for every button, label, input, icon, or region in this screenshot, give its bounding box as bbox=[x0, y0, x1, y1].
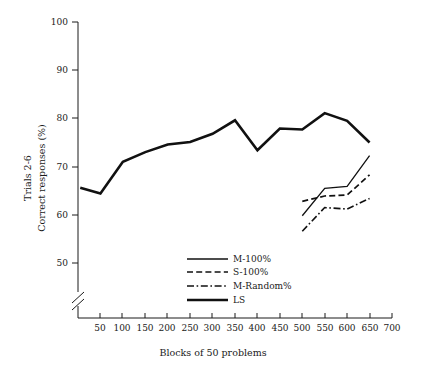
y-tick-label-50: 50 bbox=[57, 258, 69, 268]
x-tick-label-200: 200 bbox=[158, 323, 175, 333]
legend-label-m-random: M-Random% bbox=[233, 281, 292, 291]
x-tick-label-400: 400 bbox=[248, 323, 265, 333]
chart-legend: M-100% S-100% M-Random% LS bbox=[187, 254, 292, 305]
x-tick-label-250: 250 bbox=[181, 323, 198, 333]
series-line-m-100 bbox=[302, 156, 369, 216]
y-axis-title-line2: Correct responses (%) bbox=[36, 124, 47, 232]
plot-area bbox=[80, 113, 369, 231]
y-tick-label-60: 60 bbox=[57, 210, 69, 220]
x-axis-title: Blocks of 50 problems bbox=[159, 347, 266, 358]
x-tick-label-350: 350 bbox=[226, 323, 243, 333]
legend-item-m-100[interactable]: M-100% bbox=[187, 254, 271, 264]
x-tick-label-300: 300 bbox=[203, 323, 220, 333]
y-tick-label-100: 100 bbox=[51, 17, 68, 27]
x-tick-label-50: 50 bbox=[94, 323, 106, 333]
legend-label-s-100: S-100% bbox=[233, 267, 269, 277]
y-tick-label-90: 90 bbox=[57, 65, 69, 75]
y-axis-title: Trials 2-6 Correct responses (%) bbox=[22, 124, 47, 232]
legend-item-m-random[interactable]: M-Random% bbox=[187, 281, 292, 291]
legend-label-m-100: M-100% bbox=[233, 254, 271, 264]
legend-label-ls: LS bbox=[233, 295, 245, 305]
x-tick-label-650: 650 bbox=[361, 323, 378, 333]
series-line-s-100 bbox=[302, 175, 369, 202]
series-line-ls bbox=[80, 113, 369, 193]
chart-svg: 100 90 80 70 60 50 Trials 2-6 Correct re… bbox=[0, 0, 425, 372]
x-tick-label-600: 600 bbox=[338, 323, 355, 333]
x-tick-label-150: 150 bbox=[136, 323, 153, 333]
x-tick-label-450: 450 bbox=[271, 323, 288, 333]
y-axis-title-line1: Trials 2-6 bbox=[22, 155, 33, 201]
x-tick-label-500: 500 bbox=[293, 323, 310, 333]
x-axis: 50 100 150 200 250 300 350 400 450 500 5… bbox=[78, 313, 401, 333]
y-axis: 100 90 80 70 60 50 bbox=[51, 17, 84, 318]
legend-item-ls[interactable]: LS bbox=[187, 295, 245, 305]
y-tick-label-70: 70 bbox=[57, 162, 69, 172]
legend-item-s-100[interactable]: S-100% bbox=[187, 267, 269, 277]
x-tick-label-700: 700 bbox=[383, 323, 400, 333]
x-tick-label-100: 100 bbox=[113, 323, 130, 333]
chart-figure: 100 90 80 70 60 50 Trials 2-6 Correct re… bbox=[0, 0, 425, 372]
x-tick-label-550: 550 bbox=[316, 323, 333, 333]
y-tick-label-80: 80 bbox=[57, 113, 69, 123]
